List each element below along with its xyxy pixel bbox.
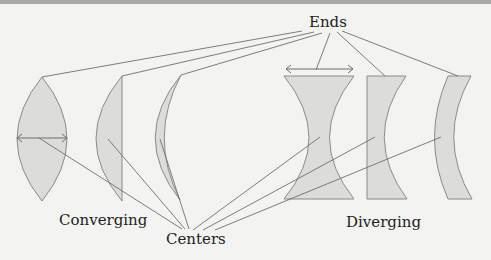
converging-label: Converging [59,211,147,229]
biconcave-width-arrow [286,65,353,73]
ends-leader-lines [42,31,458,77]
ends-label: Ends [309,13,347,31]
centers-label: Centers [166,230,226,248]
convex-meniscus-lens [155,75,181,200]
plano-concave-lens [367,76,407,199]
biconvex-lens [17,77,67,201]
diverging-label: Diverging [346,213,421,231]
